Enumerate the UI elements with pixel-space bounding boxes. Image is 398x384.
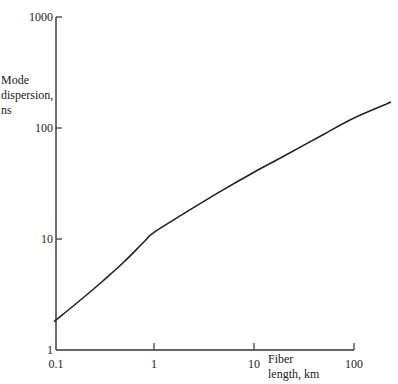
- x-tick-label: 10: [248, 357, 260, 371]
- dispersion-curve: [54, 102, 391, 322]
- x-tick-label: 0.1: [49, 357, 64, 371]
- tick-marks: [56, 17, 354, 350]
- tick-labels: 11010010000.1110100: [29, 10, 363, 371]
- y-axis-label-line: Mode: [1, 73, 53, 88]
- axes: [56, 17, 354, 350]
- y-tick-label: 100: [35, 121, 53, 135]
- chart-canvas: 11010010000.1110100: [0, 0, 398, 384]
- y-tick-label: 1000: [29, 10, 53, 24]
- y-axis-label: Mode dispersion, ns: [1, 73, 53, 118]
- x-axis-label-line: length, km: [268, 367, 319, 382]
- y-tick-label: 1: [47, 343, 53, 357]
- x-axis-label: Fiber length, km: [268, 352, 319, 382]
- x-tick-label: 100: [345, 357, 363, 371]
- x-axis-label-line: Fiber: [268, 352, 319, 367]
- y-axis-label-line: dispersion,: [1, 88, 53, 103]
- x-tick-label: 1: [151, 357, 157, 371]
- y-axis-label-line: ns: [1, 103, 53, 118]
- y-tick-label: 10: [41, 232, 53, 246]
